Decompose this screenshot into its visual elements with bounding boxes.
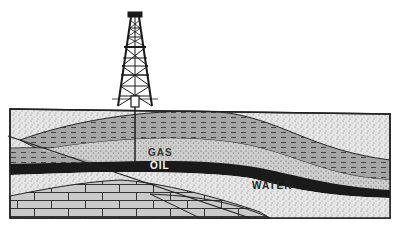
gas-label: GAS	[148, 147, 173, 158]
oil-derrick-icon	[112, 12, 158, 107]
oil-trap-diagram: GAS OIL WATER	[0, 0, 399, 228]
oil-label: OIL	[150, 160, 170, 171]
water-label: WATER	[252, 180, 292, 191]
